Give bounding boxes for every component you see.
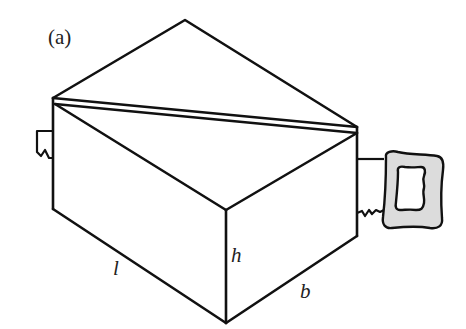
saw-cut-line-lower <box>55 104 357 133</box>
top-face-back-edges <box>53 20 357 127</box>
breadth-label: b <box>300 279 311 303</box>
cuboid-saw-diagram: (a) l h b <box>0 0 466 329</box>
saw-blade-left-stub <box>37 131 53 158</box>
height-label: h <box>231 243 242 267</box>
length-label: l <box>113 256 119 280</box>
cuboid-block <box>53 20 357 323</box>
saw-cut-line-upper <box>53 98 357 127</box>
edge-bottom-length <box>53 209 226 323</box>
saw-handle-icon <box>357 151 443 228</box>
panel-label: (a) <box>48 25 71 49</box>
edge-top-left-front <box>55 104 226 210</box>
edge-top-right-front <box>226 133 357 210</box>
edge-bottom-breadth <box>226 236 357 323</box>
